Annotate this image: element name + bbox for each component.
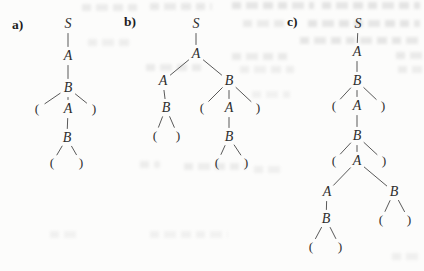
bleedthrough-smudge — [140, 161, 160, 168]
bleedthrough-smudge — [232, 53, 290, 60]
bleedthrough-smudge — [398, 66, 422, 73]
tree-edge — [399, 200, 405, 211]
bleedthrough-smudge — [150, 231, 228, 238]
bleedthrough-smudge — [252, 91, 290, 98]
nonterminal-node-b: B — [322, 212, 331, 226]
tree-edge — [236, 88, 251, 102]
nonterminal-node-b: B — [63, 131, 72, 145]
bleedthrough-smudge — [322, 2, 420, 9]
tree-edge — [340, 88, 350, 99]
bleedthrough-smudge — [232, 2, 314, 9]
nonterminal-node-b: B — [225, 130, 234, 144]
bleedthrough-smudge — [396, 52, 422, 59]
terminal-paren-node: ) — [338, 240, 343, 254]
tree-edge — [203, 60, 221, 75]
terminal-paren-node: ( — [332, 99, 337, 113]
terminal-paren-node: ) — [256, 101, 261, 115]
tree-edge — [334, 168, 351, 185]
nonterminal-node-b: B — [225, 74, 234, 88]
terminal-paren-node: ) — [382, 154, 387, 168]
nonterminal-node-b: B — [64, 81, 73, 95]
tree-edge — [234, 145, 241, 155]
tree-edge — [159, 117, 163, 127]
nonterminal-node-b: B — [353, 74, 362, 88]
terminal-paren-node: ( — [50, 156, 55, 170]
bleedthrough-smudge — [243, 20, 285, 27]
bleedthrough-smudge — [82, 4, 138, 11]
terminal-paren-node: ( — [200, 101, 205, 115]
nonterminal-node-a: A — [192, 47, 201, 61]
tree-edge — [45, 93, 60, 103]
tree-edge — [209, 88, 223, 102]
bleedthrough-smudge — [50, 231, 78, 238]
nonterminal-node-a: A — [353, 154, 362, 168]
nonterminal-node-a: A — [225, 101, 234, 115]
terminal-paren-node: ) — [381, 99, 386, 113]
bleedthrough-smudge — [88, 39, 134, 46]
tree-edge — [385, 201, 390, 212]
bleedthrough-smudge — [392, 253, 418, 260]
terminal-paren-node: ( — [332, 154, 337, 168]
tree-edge — [170, 60, 188, 75]
bleedthrough-smudge — [254, 166, 284, 173]
terminal-paren-node: ( — [153, 129, 158, 143]
terminal-paren-node: ( — [215, 156, 220, 170]
tree-edge — [75, 94, 86, 103]
nonterminal-node-a: A — [323, 185, 332, 199]
tree-edge — [316, 227, 322, 238]
panel-label-a: a) — [12, 18, 23, 32]
tree-edge — [221, 146, 225, 155]
tree-edge — [164, 90, 165, 98]
tree-edge — [364, 143, 377, 155]
nonterminal-node-a: A — [64, 49, 73, 63]
nonterminal-node-s: S — [65, 17, 72, 31]
tree-edge — [364, 167, 386, 186]
textbook-figure-page: a) b) c) SAB(A)B()SAABB()(A)B()SAB(A)B(A… — [0, 0, 424, 271]
nonterminal-node-a: A — [353, 45, 362, 59]
terminal-paren-node: ) — [92, 102, 97, 116]
nonterminal-node-a: A — [64, 102, 73, 116]
nonterminal-node-a: A — [353, 99, 362, 113]
terminal-paren-node: ) — [407, 213, 412, 227]
nonterminal-node-s: S — [355, 17, 362, 31]
tree-edge — [364, 88, 376, 100]
terminal-paren-node: ) — [79, 156, 84, 170]
tree-edge — [340, 143, 350, 154]
nonterminal-node-b: B — [353, 129, 362, 143]
terminal-paren-node: ) — [176, 129, 181, 143]
tree-edge — [57, 146, 62, 155]
terminal-paren-node: ) — [244, 156, 249, 170]
bleedthrough-smudge — [240, 66, 294, 73]
terminal-paren-node: ( — [379, 213, 384, 227]
tree-edge — [72, 146, 77, 154]
terminal-paren-node: ( — [309, 240, 314, 254]
nonterminal-node-s: S — [193, 17, 200, 31]
terminal-paren-node: ( — [35, 102, 40, 116]
nonterminal-node-b: B — [390, 185, 399, 199]
panel-label-b: b) — [124, 15, 136, 29]
bleedthrough-smudge — [308, 20, 420, 27]
tree-edge — [170, 117, 175, 128]
panel-label-c: c) — [287, 15, 298, 29]
bleedthrough-smudge — [150, 3, 212, 10]
nonterminal-node-b: B — [162, 101, 171, 115]
bleedthrough-smudge — [300, 37, 420, 44]
nonterminal-node-a: A — [159, 74, 168, 88]
bleedthrough-smudge — [146, 64, 204, 71]
tree-edge — [330, 228, 336, 239]
